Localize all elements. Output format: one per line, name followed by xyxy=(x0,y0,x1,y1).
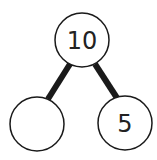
part-right-value: 5 xyxy=(117,110,132,138)
part-node-right: 5 xyxy=(98,96,152,150)
whole-node: 10 xyxy=(55,13,109,67)
part-node-left[interactable] xyxy=(10,97,64,151)
connector-right xyxy=(95,64,117,98)
whole-value: 10 xyxy=(67,27,98,55)
number-bond-diagram: 10 5 xyxy=(0,0,157,160)
connector-left xyxy=(48,64,70,99)
